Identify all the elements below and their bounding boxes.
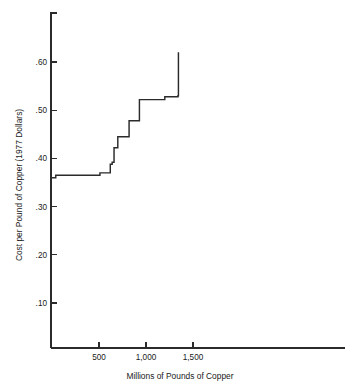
y-tick-label: .30	[36, 203, 48, 212]
y-axis-line	[51, 13, 57, 348]
y-tick-label: .10	[36, 299, 48, 308]
x-tick-label: 1,500	[183, 353, 204, 362]
x-axis-title: Millions of Pounds of Copper	[126, 371, 233, 381]
copper-supply-chart-svg: .10.20.30.40.50.60 5001,0001,500 Million…	[0, 0, 357, 389]
y-axis-tick-labels: .10.20.30.40.50.60	[36, 58, 48, 308]
y-tick-label: .50	[36, 106, 48, 115]
supply-curve-series	[52, 52, 178, 177]
x-tick-label: 500	[92, 353, 106, 362]
y-tick-label: .40	[36, 154, 48, 163]
y-tick-label: .20	[36, 251, 48, 260]
y-tick-label: .60	[36, 58, 48, 67]
y-axis-ticks	[51, 62, 57, 303]
copper-supply-chart-figure: .10.20.30.40.50.60 5001,0001,500 Million…	[0, 0, 357, 389]
x-axis-ticks	[99, 342, 193, 348]
x-axis-tick-labels: 5001,0001,500	[92, 353, 204, 362]
y-axis-title: Cost per Pound of Copper (1977 Dollars)	[14, 109, 24, 261]
x-tick-label: 1,000	[136, 353, 157, 362]
